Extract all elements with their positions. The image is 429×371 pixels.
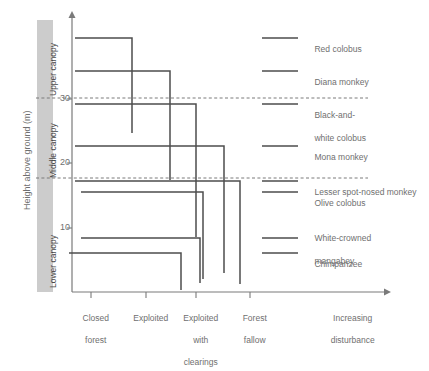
series-line-olive-colobus — [81, 192, 203, 279]
x-tick-label-line1: Forest — [243, 313, 267, 323]
x-tick-label-line1: Exploited — [133, 313, 168, 323]
x-tick-label-exploited: Exploited — [124, 302, 168, 335]
x-tick-label-exploited-with-clearings: Exploited with clearings — [174, 302, 218, 371]
x-tick-label-line2: forest — [85, 335, 106, 345]
series-line-diana-monkey — [75, 71, 170, 180]
x-tick-label-closed-forest: Closed forest — [73, 302, 109, 357]
legend-label-line1: White-crowned — [314, 233, 371, 243]
series-line-white-crowned-mangabey — [81, 238, 200, 283]
series-line-red-colobus — [75, 38, 132, 133]
legend-item-mona-monkey: Mona monkey — [305, 140, 368, 175]
x-tick-label-line3: clearings — [184, 357, 218, 367]
x-axis-title-line1: Increasing — [333, 313, 372, 323]
legend-item-chimpanzee: Chimpanzee — [305, 247, 362, 282]
legend-label-line1: Diana monkey — [314, 77, 368, 87]
x-tick-label-line1: Exploited — [183, 313, 218, 323]
legend-item-diana-monkey: Diana monkey — [305, 65, 369, 100]
x-tick-label-line2: with — [193, 335, 208, 345]
legend-item-olive-colobus: Olive colobus — [305, 186, 365, 221]
x-axis-title-line2: disturbance — [331, 335, 375, 345]
series-line-black-and-white-colobus — [75, 104, 196, 237]
x-tick-label-forest-fallow: Forest fallow — [233, 302, 267, 357]
legend-label-line1: Red colobus — [314, 44, 361, 54]
legend-label-line1: Black-and- — [314, 110, 355, 120]
legend-label-line1: Chimpanzee — [314, 259, 362, 269]
legend-label-line1: Olive colobus — [314, 198, 365, 208]
legend-item-red-colobus: Red colobus — [305, 32, 362, 67]
x-tick-label-line2: fallow — [244, 335, 266, 345]
x-tick-label-line1: Closed — [82, 313, 108, 323]
x-axis-title: Increasing disturbance — [321, 302, 374, 357]
legend-label-line1: Mona monkey — [314, 152, 367, 162]
series-line-lesser-spot-nosed-monkey — [75, 181, 240, 284]
series-line-chimpanzee — [69, 253, 181, 290]
series-line-mona-monkey — [75, 146, 224, 273]
